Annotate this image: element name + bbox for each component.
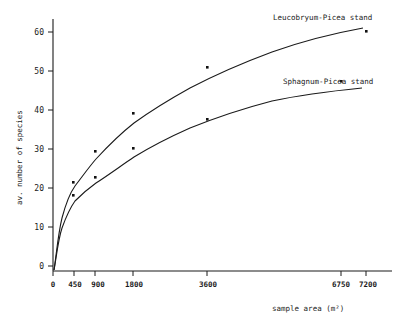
y-tick-marks (48, 32, 53, 266)
y-tick-label-50: 50 (34, 67, 44, 76)
x-tick-label-6750: 6750 (332, 280, 351, 289)
x-tick-label-1800: 1800 (125, 280, 144, 289)
y-tick-label-30: 30 (34, 145, 44, 154)
y-axis-title: av. number of species (15, 110, 24, 205)
x-tick-label-7200: 7200 (359, 280, 378, 289)
data-point (72, 181, 75, 184)
data-point (72, 194, 75, 197)
x-tick-marks (53, 271, 366, 276)
y-tick-label-60: 60 (34, 28, 44, 37)
data-point (132, 112, 135, 115)
x-axis-title: sample area (m²) (272, 304, 344, 313)
curve-sphagnum (54, 88, 362, 270)
y-tick-label-10: 10 (34, 223, 44, 232)
species-area-chart: 60 50 40 30 20 10 0 av. number of specie… (0, 0, 399, 328)
data-point (365, 30, 368, 33)
points-sphagnum (72, 80, 343, 197)
y-tick-label-20: 20 (34, 184, 44, 193)
data-point (94, 150, 97, 153)
series-label-leucobryum: Leucobryum-Picea stand (273, 13, 372, 22)
data-point (94, 176, 97, 179)
data-point (206, 66, 209, 69)
chart-canvas: 60 50 40 30 20 10 0 av. number of specie… (0, 0, 399, 328)
x-tick-label-450: 450 (68, 280, 82, 289)
data-point (206, 118, 209, 121)
curve-leucobryum (54, 28, 363, 270)
x-tick-label-3600: 3600 (199, 280, 218, 289)
series-label-sphagnum: Sphagnum-Picea stand (283, 77, 373, 86)
y-tick-label-40: 40 (34, 106, 44, 115)
y-tick-label-0: 0 (39, 262, 44, 271)
points-leucobryum (72, 30, 368, 184)
data-point (132, 147, 135, 150)
x-tick-label-0: 0 (51, 280, 56, 289)
x-tick-label-900: 900 (91, 280, 105, 289)
